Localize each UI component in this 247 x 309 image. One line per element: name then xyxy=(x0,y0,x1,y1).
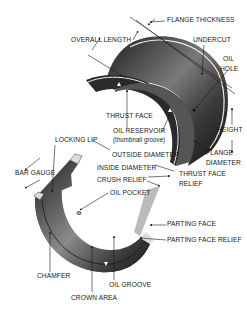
label-undercut: UNDERCUT xyxy=(193,36,231,44)
label-parting-face: PARTING FACE xyxy=(167,220,216,228)
label-oil-pocket: OIL POCKET xyxy=(110,189,150,197)
label-overall-length: OVERALL LENGTH xyxy=(71,36,131,44)
label-oil-hole-line1: OIL xyxy=(223,55,234,63)
label-thumbnail-groove: (thumbnail groove) xyxy=(113,136,165,144)
label-oil-hole-line2: HOLE xyxy=(220,65,238,73)
label-thrust-face-relief-line2: RELIEF xyxy=(179,180,203,188)
label-crush-relief: CRUSH RELIEF xyxy=(97,176,147,184)
label-inside-diameter: INSIDE DIAMETER xyxy=(97,164,156,172)
label-outside-diameter: OUTSIDE DIAMETER xyxy=(112,151,179,159)
label-oil-groove: OIL GROOVE xyxy=(109,281,151,289)
label-flange-diameter-line1: FLANGE xyxy=(206,149,233,157)
label-locking-lip: LOCKING LIP xyxy=(55,136,98,144)
label-thrust-face: THRUST FACE xyxy=(106,112,153,120)
label-flange-diameter-line2: DIAMETER xyxy=(206,159,241,167)
upper-bearing-half xyxy=(86,36,228,166)
label-flange-thickness: FLANGE THICKNESS xyxy=(167,16,234,24)
label-chamfer: CHAMFER xyxy=(37,272,70,280)
label-thrust-face-relief-line1: THRUST FACE xyxy=(179,170,226,178)
label-oil-reservoir: OIL RESERVOIR xyxy=(113,127,165,135)
label-height: HEIGHT xyxy=(217,126,243,134)
label-bar-gauge: BAR GAUGE xyxy=(15,169,55,177)
label-parting-face-relief: PARTING FACE RELIEF xyxy=(167,236,242,244)
label-crown-area: CROWN AREA xyxy=(71,294,117,302)
